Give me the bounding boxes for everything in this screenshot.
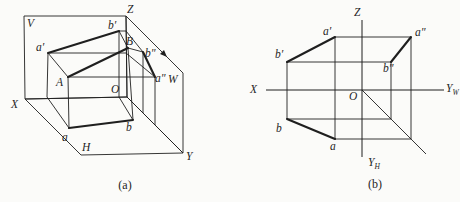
point-a-label-b: a (330, 140, 336, 152)
yh-axis-label: YH (368, 156, 380, 171)
aprime-to-xaxis (47, 53, 48, 97)
point-A-label: A (55, 76, 64, 88)
h-plane-outline (25, 97, 183, 155)
w-plane-label: W (168, 73, 179, 85)
origin-label: O (111, 83, 120, 95)
panel-b-axes (266, 20, 444, 157)
point-a-prime-label: a′ (36, 41, 45, 53)
panel-b: Z X O YW YH a′ b′ a″ b″ b a (b) (249, 6, 459, 191)
x-axis-label: X (10, 98, 19, 110)
h-plane-label: H (81, 141, 91, 153)
z-axis-label: Z (127, 3, 134, 15)
point-B-label: B (126, 35, 133, 47)
panel-b-segments (287, 37, 411, 139)
panel-b-labels: Z X O YW YH a′ b′ a″ b″ b a (249, 6, 459, 171)
x-axis-label-b: X (249, 83, 258, 95)
projector-A-a (68, 77, 69, 128)
frontal-view-segment (287, 37, 335, 62)
figure-canvas: V H W X Y Z O a′ b′ A B a b a″ b″ (a) (0, 0, 460, 202)
miter-45-line (362, 90, 426, 154)
caption-a: (a) (118, 178, 131, 192)
horizontal-view-segment (287, 119, 335, 139)
point-a-prime-label-b: a′ (323, 25, 332, 37)
point-b-dprime-label: b″ (145, 47, 156, 59)
panel-a: V H W X Y Z O a′ b′ A B a b a″ b″ (a) (10, 3, 194, 192)
point-b-prime-label-b: b′ (275, 48, 284, 60)
point-b-prime-label: b′ (108, 19, 117, 31)
point-a-dprime-label-b: a″ (415, 26, 426, 38)
construction-lines (47, 31, 155, 128)
point-b-dprime-label-b: b″ (383, 62, 394, 74)
projection-planes-figure: V H W X Y Z O a′ b′ A B a b a″ b″ (a) (0, 0, 460, 202)
yw-axis-label: YW (446, 82, 459, 97)
projector-B-b (128, 48, 133, 120)
profile-view-segment (391, 37, 411, 62)
v-plane-label: V (27, 17, 36, 29)
panel-a-labels: V H W X Y Z O a′ b′ A B a b a″ b″ (10, 3, 194, 162)
point-b-label: b (126, 121, 132, 133)
caption-b: (b) (368, 177, 382, 191)
point-a-label: a (62, 131, 68, 143)
point-a-dprime-label: a″ (155, 72, 166, 84)
y-axis-label: Y (186, 150, 194, 162)
xaxis-to-a (47, 97, 69, 128)
segment-frontal-projection (48, 31, 119, 53)
segment-horizontal-projection (69, 120, 133, 128)
origin-label-b: O (349, 90, 358, 102)
projector-aprime-A (48, 53, 68, 77)
segments (48, 31, 155, 128)
point-b-label-b: b (276, 122, 282, 134)
z-axis-label-b: Z (354, 6, 361, 18)
